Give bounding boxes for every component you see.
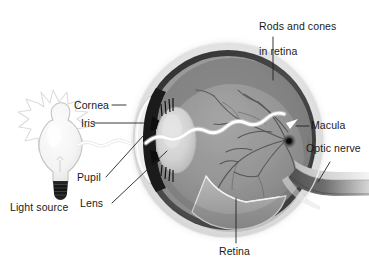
label-pupil: Pupil [77,171,101,184]
eye-diagram-figure: Rods and cones in retina Cornea Iris Pup… [0,0,369,273]
label-iris: Iris [81,117,95,130]
label-lens: Lens [80,197,103,210]
light-bulb-screw-base [53,181,68,200]
label-optic-nerve: Optic nerve [306,142,361,155]
label-macula: Macula [311,119,345,132]
label-rods-and-cones: Rods and cones in retina [247,7,336,70]
label-cornea: Cornea [74,99,109,112]
label-rods-and-cones-line1: Rods and cones [259,20,336,32]
label-rods-and-cones-line2: in retina [259,45,297,57]
label-light-source: Light source [10,201,68,214]
label-retina: Retina [219,245,250,258]
